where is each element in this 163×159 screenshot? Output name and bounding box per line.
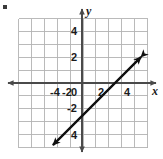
y-tick-label-neg2: -2	[67, 103, 77, 114]
graph-canvas	[0, 0, 163, 159]
x-tick-label-pos2: 2	[98, 87, 104, 98]
y-tick-label-pos4: 4	[71, 26, 77, 37]
x-tick-label-pos4: 4	[124, 87, 130, 98]
coordinate-graph-figure: -4 -2 0 2 4 4 2 -2 4 x y	[0, 0, 163, 159]
y-tick-label-pos2: 2	[71, 52, 77, 63]
x-axis-label: x	[152, 85, 158, 97]
y-axis-label: y	[86, 5, 91, 17]
origin-label: 0	[71, 87, 77, 98]
y-tick-label-neg4: 4	[71, 130, 77, 141]
x-tick-label-neg4: -4	[50, 87, 60, 98]
